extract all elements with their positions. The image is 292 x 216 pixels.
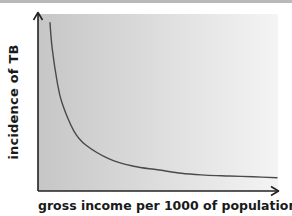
- plot-area: [38, 14, 278, 191]
- x-axis-label: gross income per 1000 of population: [38, 198, 292, 213]
- chart-canvas: [0, 0, 292, 216]
- chart-frame: incidence of TB gross income per 1000 of…: [0, 0, 292, 216]
- y-axis-label: incidence of TB: [6, 44, 21, 159]
